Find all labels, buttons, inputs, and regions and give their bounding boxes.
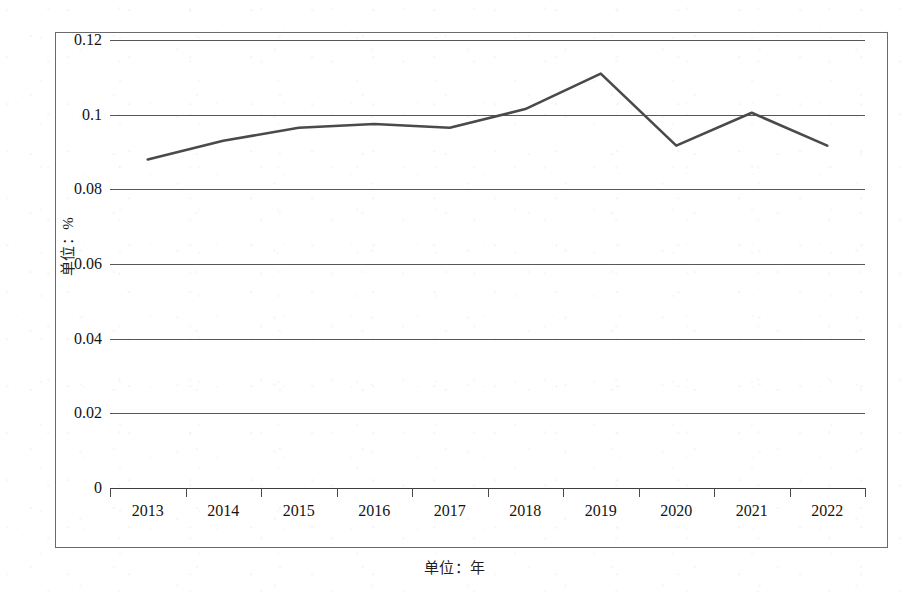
line-series-chart [110,40,865,510]
plot-area: 00.020.040.060.080.10.12 201320142015201… [110,40,865,510]
x-tick-mark [865,488,866,497]
series-line-比重 [148,74,828,160]
y-tick-label: 0.1 [82,106,102,124]
x-axis-title: 单位：年 [0,556,909,577]
y-tick-label: 0.08 [74,180,102,198]
y-tick-label: 0.02 [74,404,102,422]
y-tick-label: 0.12 [74,31,102,49]
y-axis-title: 单位：% [56,187,77,307]
y-tick-label: 0 [94,479,102,497]
y-tick-label: 0.06 [74,255,102,273]
y-tick-label: 0.04 [74,330,102,348]
